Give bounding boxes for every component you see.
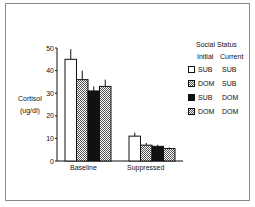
y-tick-label: 20 (46, 112, 54, 119)
bar (88, 91, 100, 161)
legend-swatch-white (188, 66, 195, 73)
y-tick-label: 40 (46, 67, 54, 74)
y-tick-label: 0 (50, 158, 54, 165)
x-category-baseline: Baseline (70, 164, 97, 171)
bar (129, 136, 141, 161)
bar (100, 86, 112, 161)
legend-swatch-hatched (188, 80, 195, 87)
bar (164, 149, 176, 161)
y-tick-label: 10 (46, 135, 54, 142)
bars (65, 49, 175, 161)
legend-swatch-hatched (188, 108, 195, 115)
legend-col-initial: Initial (197, 53, 213, 60)
bar (152, 146, 164, 161)
legend-title: Social Status (196, 41, 237, 48)
y-tick-label: 50 (46, 45, 54, 52)
bar (141, 145, 153, 161)
legend-col-current: Current (220, 53, 243, 60)
bar-chart: 01020304050 (0, 0, 255, 207)
y-tick-label: 30 (46, 90, 54, 97)
x-category-suppressed: Suppressed (127, 164, 164, 171)
legend-swatch-black (188, 94, 195, 101)
bar (77, 80, 89, 161)
bar (65, 59, 77, 161)
